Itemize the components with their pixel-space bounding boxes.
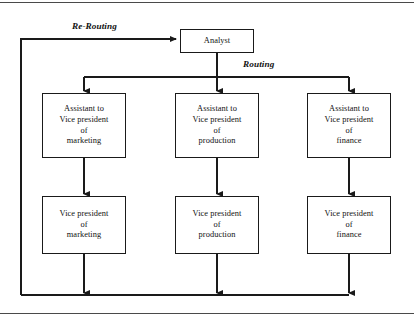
node-vp-finance-line-3: finance xyxy=(337,230,362,241)
node-assistant-vp-production[interactable]: Assistant to Vice president of productio… xyxy=(175,93,259,158)
node-assistant-vp-finance-line-3: of xyxy=(345,126,352,137)
node-assistant-vp-finance-line-2: Vice president xyxy=(325,115,374,126)
node-vp-finance-line-2: of xyxy=(345,220,352,231)
node-vp-production-line-2: of xyxy=(213,220,220,231)
edge-label-re-routing: Re-Routing xyxy=(72,21,117,31)
node-assistant-vp-marketing[interactable]: Assistant to Vice president of marketing xyxy=(42,93,126,158)
node-assistant-vp-marketing-line-4: marketing xyxy=(67,136,101,147)
flowchart-figure: Re-Routing Routing Analyst Assistant to … xyxy=(0,0,414,323)
node-assistant-vp-finance-line-1: Assistant to xyxy=(329,104,369,115)
edge-label-routing: Routing xyxy=(243,59,274,69)
node-vp-finance[interactable]: Vice president of finance xyxy=(307,196,391,254)
node-assistant-vp-marketing-line-2: Vice president xyxy=(60,115,109,126)
node-analyst-line-1: Analyst xyxy=(204,36,230,47)
node-vp-finance-line-1: Vice president xyxy=(325,209,374,220)
node-vp-production-line-3: production xyxy=(199,230,236,241)
node-assistant-vp-production-line-3: of xyxy=(213,126,220,137)
node-assistant-vp-production-line-4: production xyxy=(199,136,236,147)
node-assistant-vp-finance[interactable]: Assistant to Vice president of finance xyxy=(307,93,391,158)
node-assistant-vp-marketing-line-3: of xyxy=(80,126,87,137)
node-analyst[interactable]: Analyst xyxy=(180,29,254,53)
node-assistant-vp-production-line-2: Vice president xyxy=(193,115,242,126)
node-assistant-vp-production-line-1: Assistant to xyxy=(197,104,237,115)
node-vp-production[interactable]: Vice president of production xyxy=(175,196,259,254)
node-assistant-vp-finance-line-4: finance xyxy=(337,136,362,147)
node-assistant-vp-marketing-line-1: Assistant to xyxy=(64,104,104,115)
node-vp-marketing-line-1: Vice president xyxy=(60,209,109,220)
node-vp-marketing-line-2: of xyxy=(80,220,87,231)
node-vp-marketing[interactable]: Vice president of marketing xyxy=(42,196,126,254)
node-vp-production-line-1: Vice president xyxy=(193,209,242,220)
node-vp-marketing-line-3: marketing xyxy=(67,230,101,241)
